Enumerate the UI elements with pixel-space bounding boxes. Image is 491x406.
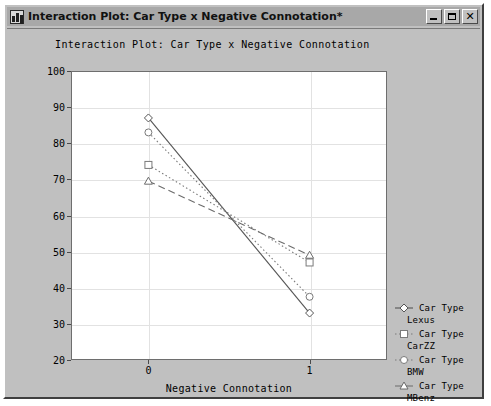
square-marker [306, 259, 313, 266]
window-client-area: Interaction Plot: Car Type x Negative Co… [7, 28, 480, 395]
plot-window: Interaction Plot: Car Type x Negative Co… [3, 3, 484, 399]
y-tick-label: 20 [53, 355, 65, 366]
circle-marker [401, 356, 408, 363]
series-layer [71, 71, 387, 360]
x-tick-mark [148, 360, 149, 364]
y-tick-label: 90 [53, 102, 65, 113]
series-line [148, 132, 309, 296]
y-tick-label: 40 [53, 282, 65, 293]
y-tick-label: 80 [53, 138, 65, 149]
legend-label-primary: Car Type [419, 329, 464, 339]
diamond-marker [400, 304, 408, 312]
x-tick-label: 0 [145, 365, 151, 376]
minimize-button[interactable] [426, 9, 442, 24]
legend-label-secondary: MBenz [393, 392, 483, 404]
series-line [148, 181, 309, 255]
triangle-marker [306, 251, 314, 258]
plot-window-icon [10, 10, 24, 24]
legend-entry-bmw[interactable]: Car TypeBMW [393, 353, 483, 378]
y-tick-label: 50 [53, 246, 65, 257]
y-tick-mark [67, 143, 71, 144]
chart-title: Interaction Plot: Car Type x Negative Co… [55, 39, 370, 50]
circle-marker [306, 293, 313, 300]
series-carzz [145, 161, 313, 266]
window-controls: ✕ [426, 9, 478, 24]
window-title: Interaction Plot: Car Type x Negative Co… [28, 10, 426, 23]
y-tick-label: 30 [53, 318, 65, 329]
y-tick-mark [67, 288, 71, 289]
legend-label-primary: Car Type [419, 381, 464, 391]
legend-entry-lexus[interactable]: Car TypeLexus [393, 301, 483, 326]
legend-marker-circle [393, 354, 419, 366]
legend-label-primary: Car Type [419, 303, 464, 313]
legend-label-secondary: Lexus [393, 314, 483, 326]
close-icon: ✕ [465, 11, 474, 22]
x-axis-title: Negative Connotation [71, 383, 387, 394]
legend-label-secondary: CarZZ [393, 340, 483, 352]
y-axis-tick-labels: 2030405060708090100 [31, 71, 65, 360]
legend-entry-mbenz[interactable]: Car TypeMBenz [393, 379, 483, 404]
close-button[interactable]: ✕ [462, 9, 478, 24]
legend-label-primary: Car Type [419, 355, 464, 365]
interaction-plot: Interaction Plot: Car Type x Negative Co… [7, 29, 484, 400]
x-tick-label: 1 [307, 365, 313, 376]
legend-entry-carzz[interactable]: Car TypeCarZZ [393, 327, 483, 352]
series-mbenz [144, 177, 313, 258]
series-bmw [145, 129, 313, 300]
x-tick-mark [310, 360, 311, 364]
y-tick-label: 70 [53, 174, 65, 185]
circle-marker [145, 129, 152, 136]
window-titlebar[interactable]: Interaction Plot: Car Type x Negative Co… [7, 7, 480, 26]
legend-marker-triangle [393, 380, 419, 392]
series-lexus [144, 114, 313, 317]
legend-label-secondary: BMW [393, 366, 483, 378]
y-tick-label: 60 [53, 210, 65, 221]
y-tick-mark [67, 107, 71, 108]
y-tick-mark [67, 71, 71, 72]
y-tick-mark [67, 324, 71, 325]
y-tick-label: 100 [47, 66, 65, 77]
triangle-marker [144, 177, 152, 184]
y-tick-mark [67, 252, 71, 253]
y-tick-mark [67, 360, 71, 361]
legend-marker-diamond [393, 302, 419, 314]
legend-marker-square [393, 328, 419, 340]
series-line [148, 165, 309, 263]
series-line [148, 118, 309, 313]
chart-legend: Car TypeLexusCar TypeCarZZCar TypeBMWCar… [393, 301, 483, 405]
maximize-button[interactable] [444, 9, 460, 24]
square-marker [145, 161, 152, 168]
y-tick-mark [67, 179, 71, 180]
square-marker [401, 330, 408, 337]
y-tick-mark [67, 216, 71, 217]
